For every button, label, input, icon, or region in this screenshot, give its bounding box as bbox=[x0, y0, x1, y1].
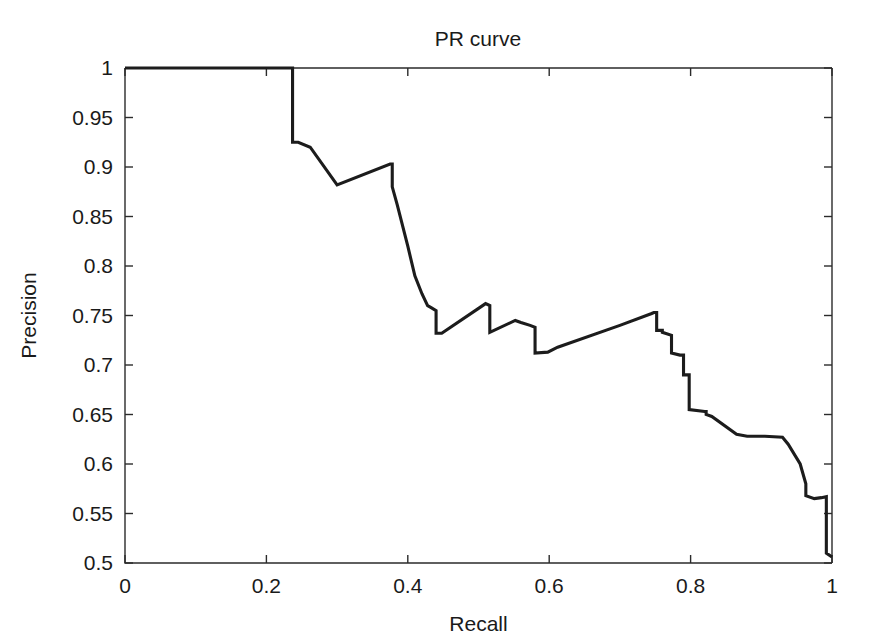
x-tick-label: 0.4 bbox=[393, 574, 423, 597]
y-tick-label: 0.75 bbox=[72, 304, 113, 327]
y-tick-label: 0.8 bbox=[84, 254, 113, 277]
x-axis-label: Recall bbox=[449, 612, 507, 635]
pr-curve-figure: PR curve 0.50.550.60.650.70.750.80.850.9… bbox=[0, 0, 875, 643]
y-tick-label: 0.9 bbox=[84, 155, 113, 178]
chart-title: PR curve bbox=[435, 27, 521, 50]
y-tick-label: 0.5 bbox=[84, 551, 113, 574]
pr-curve-plot: PR curve 0.50.550.60.650.70.750.80.850.9… bbox=[0, 0, 875, 643]
x-tick-label: 0 bbox=[119, 574, 131, 597]
x-tick-label: 0.8 bbox=[676, 574, 705, 597]
y-tick-label: 0.95 bbox=[72, 106, 113, 129]
x-tick-label: 0.2 bbox=[252, 574, 281, 597]
x-tick-label: 1 bbox=[826, 574, 838, 597]
y-tick-label: 0.85 bbox=[72, 205, 113, 228]
x-tick-label: 0.6 bbox=[535, 574, 564, 597]
y-tick-label: 1 bbox=[101, 56, 113, 79]
y-axis-label: Precision bbox=[17, 272, 40, 358]
y-tick-label: 0.7 bbox=[84, 353, 113, 376]
y-tick-label: 0.55 bbox=[72, 502, 113, 525]
y-tick-label: 0.65 bbox=[72, 403, 113, 426]
y-tick-label: 0.6 bbox=[84, 452, 113, 475]
